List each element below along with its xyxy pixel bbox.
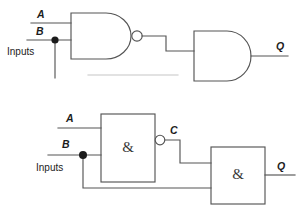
bottom-and-gate-symbol: & (232, 166, 244, 182)
top-nand-gate-body (71, 13, 131, 59)
top-and-gate-body (194, 31, 251, 81)
bottom-nand-gate-symbol: & (122, 139, 134, 155)
bottom-label-input-b: B (62, 139, 70, 150)
bottom-label-input-a: A (66, 113, 74, 124)
top-label-input-a: A (37, 9, 45, 20)
top-label-input-b: B (36, 26, 44, 37)
circuit-diagrams-svg: & & (0, 0, 301, 211)
bottom-label-output-q: Q (277, 161, 285, 172)
figure-canvas: & & A B Inputs Q A B Inputs C Q (0, 0, 301, 211)
bottom-wire-c-to-and (165, 140, 211, 163)
bottom-label-inputs: Inputs (36, 163, 63, 173)
bottom-label-node-c: C (170, 125, 178, 136)
top-wire-nand-to-and (142, 36, 194, 51)
top-nand-inversion-bubble (132, 31, 142, 41)
top-label-inputs: Inputs (7, 47, 34, 57)
bottom-nand-inversion-bubble (155, 135, 165, 145)
top-diagram-group (27, 13, 288, 81)
bottom-wire-feedback (83, 155, 211, 188)
top-label-output-q: Q (276, 41, 284, 52)
top-junction-dot (51, 36, 58, 43)
bottom-junction-dot (79, 151, 87, 159)
